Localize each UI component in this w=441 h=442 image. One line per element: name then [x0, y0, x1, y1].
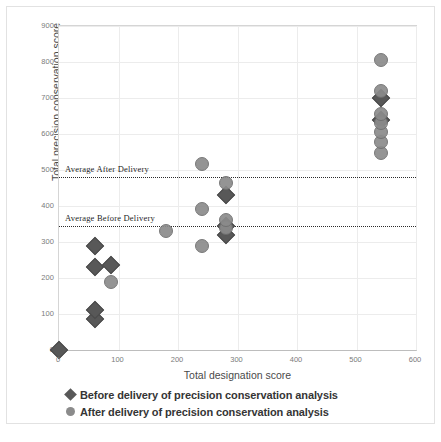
y-axis-tick-label: 400 — [18, 201, 54, 210]
data-point-after[interactable] — [374, 53, 388, 67]
gridline-vertical — [178, 26, 179, 350]
legend-item-label: Before delivery of precision conservatio… — [80, 389, 338, 401]
data-point-after[interactable] — [195, 157, 209, 171]
x-axis-title: Total designation score — [58, 369, 417, 381]
data-point-after[interactable] — [219, 176, 233, 190]
average-reference-line — [59, 226, 416, 227]
x-axis-tick-label: 300 — [217, 355, 257, 364]
data-point-after[interactable] — [104, 275, 118, 289]
average-reference-label: Average Before Delivery — [65, 213, 155, 223]
data-point-after[interactable] — [219, 213, 233, 227]
y-axis-tick-label: 900 — [18, 21, 54, 30]
y-axis-tick-label: 700 — [18, 93, 54, 102]
data-point-after[interactable] — [374, 84, 388, 98]
x-axis-tick-labels: 0100200300400500600 — [58, 355, 417, 369]
y-axis-tick-label: 600 — [18, 129, 54, 138]
legend-item-after[interactable]: After delivery of precision conservation… — [66, 403, 428, 420]
y-axis-tick-label: 500 — [18, 165, 54, 174]
average-reference-line — [59, 177, 416, 178]
diamond-marker-icon — [64, 388, 77, 401]
chart-legend: Before delivery of precision conservatio… — [58, 386, 428, 420]
y-axis-tick-label: 300 — [18, 237, 54, 246]
circle-marker-icon — [66, 407, 75, 416]
y-axis-tick-label: 200 — [18, 273, 54, 282]
data-point-before[interactable] — [85, 236, 103, 254]
data-point-after[interactable] — [195, 202, 209, 216]
legend-item-before[interactable]: Before delivery of precision conservatio… — [66, 386, 428, 403]
x-axis-tick-label: 0 — [38, 355, 78, 364]
y-axis-tick-label: 800 — [18, 57, 54, 66]
x-axis-tick-label: 200 — [157, 355, 197, 364]
scatter-chart-figure: Total precision conservation score 01002… — [0, 0, 441, 442]
gridline-vertical — [119, 26, 120, 350]
y-axis-tick-labels: 0100200300400500600700800900 — [14, 25, 54, 351]
gridline-vertical — [357, 26, 358, 350]
legend-item-label: After delivery of precision conservation… — [80, 406, 329, 418]
plot-area: Average After DeliveryAverage Before Del… — [58, 25, 417, 351]
y-axis-tick-label: 0 — [18, 345, 54, 354]
average-reference-label: Average After Delivery — [65, 164, 149, 174]
data-point-after[interactable] — [195, 239, 209, 253]
data-point-after[interactable] — [374, 107, 388, 121]
x-axis-tick-label: 500 — [336, 355, 376, 364]
x-axis-tick-label: 600 — [395, 355, 435, 364]
gridline-vertical — [238, 26, 239, 350]
data-point-before[interactable] — [85, 258, 103, 276]
x-axis-tick-label: 400 — [276, 355, 316, 364]
x-axis-tick-label: 100 — [98, 355, 138, 364]
gridline-vertical — [297, 26, 298, 350]
data-point-after[interactable] — [159, 224, 173, 238]
gridline-vertical — [416, 26, 417, 350]
y-axis-tick-label: 100 — [18, 309, 54, 318]
